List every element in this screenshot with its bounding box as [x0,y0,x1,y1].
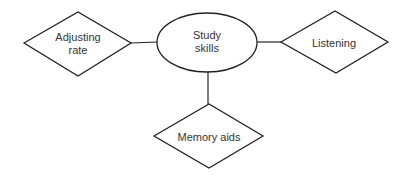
diagram-shapes [0,0,411,178]
node-listening-label: Listening [312,37,356,50]
center-node-label-line2: skills [193,42,221,55]
node-adjusting-rate-label: Adjusting rate [55,31,100,57]
node-listening-label-line1: Listening [312,37,356,50]
center-node-label-line1: Study [193,29,221,42]
center-node-label: Study skills [193,29,221,55]
diagram-canvas: Study skills Adjusting rate Listening Me… [0,0,411,178]
node-memory-aids-label: Memory aids [178,131,241,144]
connector-left [131,42,157,43]
node-adjusting-rate-label-line2: rate [55,44,100,57]
node-adjusting-rate-label-line1: Adjusting [55,31,100,44]
node-memory-aids-label-line1: Memory aids [178,131,241,144]
